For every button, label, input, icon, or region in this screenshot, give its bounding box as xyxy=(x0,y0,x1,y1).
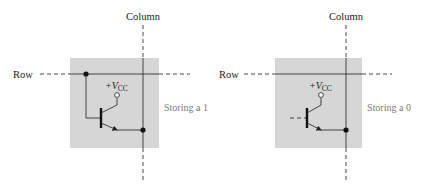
state-label: Storing a 1 xyxy=(164,102,208,113)
row-label: Row xyxy=(219,69,239,80)
cell-background xyxy=(275,58,362,148)
column-junction-dot xyxy=(343,127,348,132)
cell-background xyxy=(70,58,159,148)
column-junction-dot xyxy=(140,127,145,132)
vcc-terminal-icon xyxy=(319,93,324,98)
rom-cell-diagram: Row Column +VCC Storing a 1 Row Column +… xyxy=(0,0,424,192)
column-label: Column xyxy=(126,11,161,22)
column-label: Column xyxy=(329,11,364,22)
memory-cell-storing-1: Row Column +VCC Storing a 1 xyxy=(13,11,208,182)
memory-cell-storing-0: Row Column +VCC Storing a 0 xyxy=(219,11,411,182)
state-label: Storing a 0 xyxy=(367,102,411,113)
vcc-terminal-icon xyxy=(115,93,120,98)
row-label: Row xyxy=(13,69,33,80)
